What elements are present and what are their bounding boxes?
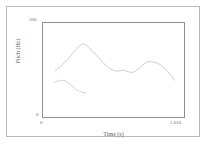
figure-canvas: 300 0 0 1.616 Time (s) Pitch (Hz) xyxy=(0,0,208,153)
plot-area xyxy=(42,22,185,118)
pitch-contour-main xyxy=(55,44,174,80)
x-axis-max-tick-label: 1.616 xyxy=(170,120,181,126)
y-axis-min-tick-label: 0 xyxy=(36,112,39,118)
x-axis-min-tick-label: 0 xyxy=(40,120,43,126)
y-axis-max-tick-label: 300 xyxy=(29,17,37,23)
pitch-contour-secondary xyxy=(54,80,86,92)
y-axis-title: Pitch (Hz) xyxy=(15,21,21,81)
pitch-contour-plot xyxy=(42,22,185,118)
x-axis-title: Time (s) xyxy=(42,131,185,137)
